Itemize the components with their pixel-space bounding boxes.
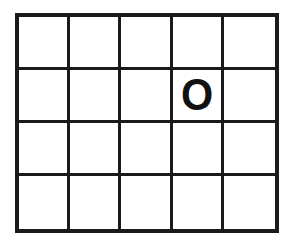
grid-cell-r1c3[interactable] (121, 17, 172, 70)
grid-cell-r3c4[interactable] (173, 123, 224, 176)
grid-cell-r3c2[interactable] (70, 123, 121, 176)
grid-cell-r4c4[interactable] (173, 176, 224, 229)
grid-cell-r2c5[interactable] (224, 70, 275, 123)
grid-cell-r4c2[interactable] (70, 176, 121, 229)
grid-cell-r4c5[interactable] (224, 176, 275, 229)
grid-cell-r2c2[interactable] (70, 70, 121, 123)
grid-cell-r3c3[interactable] (121, 123, 172, 176)
grid-cell-r2c1[interactable] (19, 70, 70, 123)
grid-cell-r3c1[interactable] (19, 123, 70, 176)
grid-cell-r1c1[interactable] (19, 17, 70, 70)
grid-cell-r3c5[interactable] (224, 123, 275, 176)
grid-cell-r1c4[interactable] (173, 17, 224, 70)
grid-cell-r4c1[interactable] (19, 176, 70, 229)
grid-cell-r1c5[interactable] (224, 17, 275, 70)
grid-cell-r2c4[interactable]: O (173, 70, 224, 123)
cell-mark-o: O (181, 73, 213, 117)
grid-cell-r4c3[interactable] (121, 176, 172, 229)
grid-cell-r1c2[interactable] (70, 17, 121, 70)
grid-cell-r2c3[interactable] (121, 70, 172, 123)
grid-container: O (15, 13, 279, 233)
figure-canvas: O (0, 0, 293, 247)
